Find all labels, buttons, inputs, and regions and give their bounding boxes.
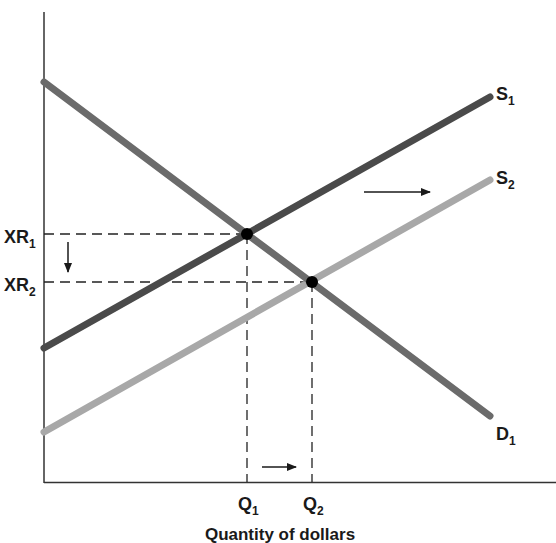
- q1-label: Q1: [238, 494, 259, 518]
- s2-curve: [44, 180, 490, 432]
- s1-label: S1: [496, 84, 515, 108]
- x-axis-title: Quantity of dollars: [205, 525, 355, 543]
- equilibrium-point-2: [306, 276, 318, 288]
- xr1-label: XR1: [4, 227, 36, 251]
- s2-label: S2: [496, 168, 515, 192]
- d1-label: D1: [496, 424, 516, 448]
- supply-demand-chart: XR1 XR2 S1 S2 D1 Q1 Q2 Quantity of dolla…: [0, 0, 556, 543]
- equilibrium-point-1: [241, 228, 253, 240]
- xr2-label: XR2: [4, 275, 36, 299]
- q2-label: Q2: [303, 494, 324, 518]
